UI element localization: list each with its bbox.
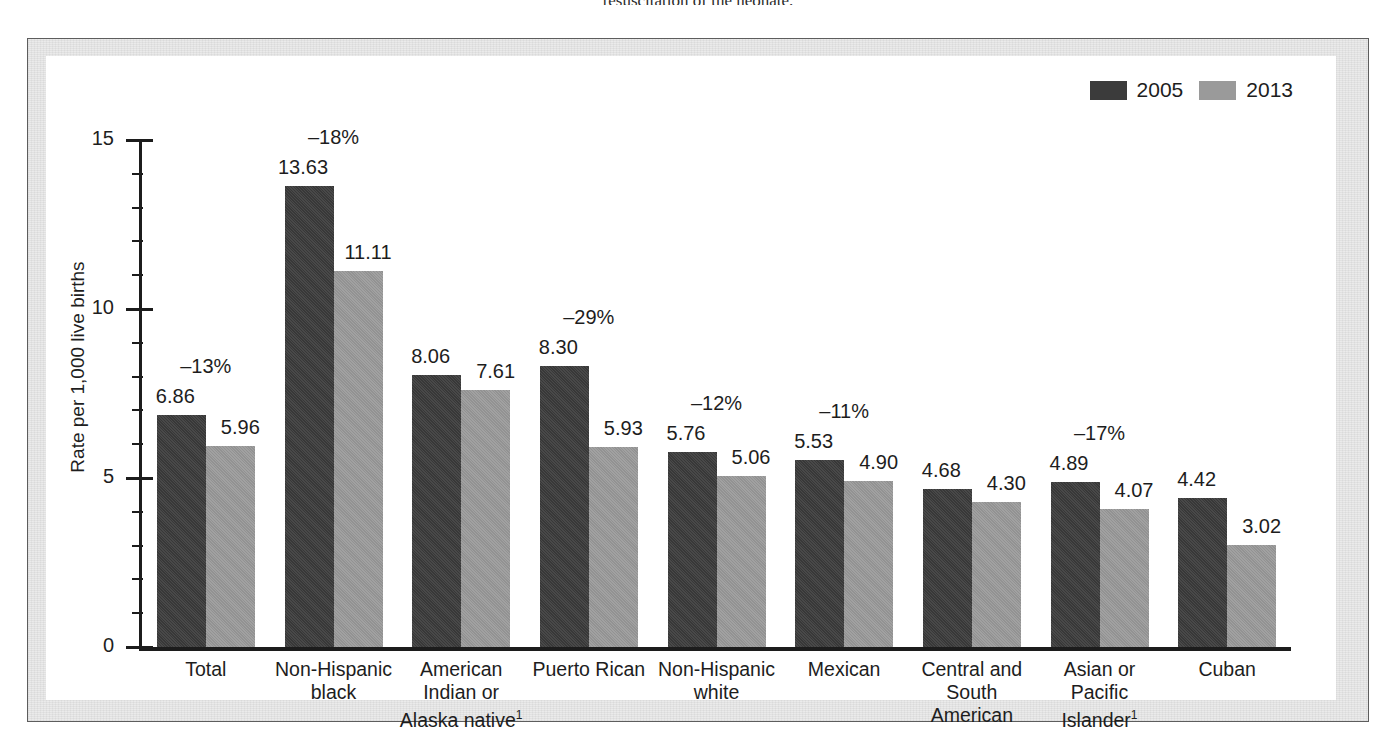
bar-2013: [844, 481, 893, 647]
value-label-2005: 6.86: [133, 385, 217, 408]
y-tick-minor-13: [132, 207, 143, 209]
category-label-line: Cuban: [1150, 658, 1304, 681]
bar-2005: [668, 452, 717, 647]
y-axis-title: Rate per 1,000 live births: [67, 167, 89, 567]
y-tick-minor-7: [132, 409, 143, 411]
category-label: Cuban: [1150, 658, 1304, 681]
category-label-line: Alaska native1: [384, 704, 538, 732]
y-tick-label-15: 15: [54, 127, 114, 150]
y-tick-minor-12: [132, 240, 143, 242]
bar-2013: [461, 390, 510, 647]
bar-2013: [334, 271, 383, 647]
y-tick-minor-9: [132, 342, 143, 344]
legend-label-2013: 2013: [1246, 78, 1293, 102]
category-label-line: white: [640, 681, 794, 704]
footnote-marker: 1: [1131, 708, 1138, 722]
y-tick-minor-8: [132, 376, 143, 378]
bar-2005: [1051, 482, 1100, 647]
y-tick-minor-4: [132, 511, 143, 513]
bar-2005: [540, 366, 589, 647]
percent-change-label: –17%: [1040, 422, 1160, 445]
bar-2005: [795, 460, 844, 647]
y-tick-minor-6: [132, 443, 143, 445]
bar-2013: [589, 447, 638, 647]
bar-chart: 20052013 051015 Rate per 1,000 live birt…: [46, 56, 1336, 700]
percent-change-label: –11%: [784, 400, 904, 423]
bar-2005: [412, 375, 461, 647]
percent-change-label: –13%: [146, 355, 266, 378]
percent-change-label: –12%: [657, 392, 777, 415]
percent-change-label: –29%: [529, 306, 649, 329]
footnote-marker: 1: [516, 708, 523, 722]
value-label-2013: 5.96: [198, 416, 282, 439]
y-tick-minor-1: [132, 612, 143, 614]
legend-item-2005: 2005: [1090, 78, 1184, 102]
y-tick-major-15: [126, 139, 153, 142]
bar-2013: [1227, 545, 1276, 647]
value-label-2005: 13.63: [261, 156, 345, 179]
legend-item-2013: 2013: [1199, 78, 1293, 102]
page-body-text-fragment: resuscitation of the neonate.: [0, 0, 1396, 5]
y-tick-minor-2: [132, 578, 143, 580]
legend-swatch-2013: [1199, 81, 1236, 100]
bar-2005: [923, 489, 972, 647]
value-label-2005: 5.76: [644, 422, 728, 445]
x-axis-line: [139, 647, 1291, 651]
y-tick-minor-11: [132, 274, 143, 276]
percent-change-label: –18%: [274, 126, 394, 149]
chart-canvas: 20052013 051015 Rate per 1,000 live birt…: [46, 56, 1336, 700]
y-tick-minor-14: [132, 173, 143, 175]
value-label-2005: 4.89: [1027, 452, 1111, 475]
value-label-2005: 4.42: [1155, 468, 1239, 491]
category-label-line: Indian or: [384, 681, 538, 704]
y-tick-minor-3: [132, 545, 143, 547]
chart-legend: 20052013: [1090, 78, 1293, 102]
value-label-2013: 4.30: [964, 472, 1048, 495]
y-tick-major-0: [126, 646, 153, 649]
bar-2013: [206, 446, 255, 647]
value-label-2005: 8.30: [516, 336, 600, 359]
y-tick-major-5: [126, 477, 153, 480]
legend-swatch-2005: [1090, 81, 1127, 100]
category-label-line: Islander1: [1023, 704, 1177, 732]
bar-2013: [972, 502, 1021, 647]
figure-page: resuscitation of the neonate. 20052013 0…: [0, 0, 1396, 738]
bar-2013: [717, 476, 766, 647]
bar-2005: [157, 415, 206, 647]
category-label-line: Pacific: [1023, 681, 1177, 704]
legend-label-2005: 2005: [1137, 78, 1184, 102]
value-label-2013: 3.02: [1220, 515, 1304, 538]
value-label-2013: 7.61: [454, 360, 538, 383]
bar-2013: [1100, 509, 1149, 647]
figure-frame: 20052013 051015 Rate per 1,000 live birt…: [27, 38, 1369, 722]
y-tick-major-10: [126, 308, 153, 311]
value-label-2005: 5.53: [772, 430, 856, 453]
value-label-2013: 11.11: [326, 241, 410, 264]
y-tick-label-0: 0: [54, 634, 114, 657]
